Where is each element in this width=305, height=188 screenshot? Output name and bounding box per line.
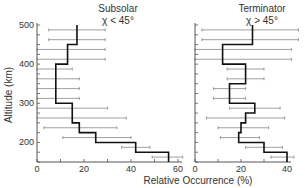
subsolar-title: Subsolar	[98, 3, 138, 14]
x-tick-label: 0	[34, 164, 39, 174]
x-tick-label: 20	[236, 164, 246, 174]
x-tick-label: 40	[126, 164, 136, 174]
terminator-panel: 02040	[192, 23, 298, 174]
terminator-subtitle: χ > 45°	[246, 15, 278, 26]
y-tick-label: 500	[19, 20, 34, 30]
x-tick-label: 20	[79, 164, 89, 174]
subsolar-subtitle: χ < 45°	[102, 15, 134, 26]
y-tick-label: 400	[19, 59, 34, 69]
x-axis-label: Relative Occurrence (%)	[144, 175, 253, 186]
occurrence-step-line	[223, 25, 287, 162]
x-tick-label: 60	[173, 164, 183, 174]
y-tick-label: 300	[19, 98, 34, 108]
terminator-title: Terminator	[238, 3, 286, 14]
y-axis-label: Altitude (km)	[3, 67, 14, 123]
occurrence-step-line	[56, 25, 169, 162]
x-tick-label: 0	[192, 164, 197, 174]
y-tick-label: 200	[19, 137, 34, 147]
x-tick-label: 40	[282, 164, 292, 174]
subsolar-panel: 2003004005000204060	[19, 20, 183, 174]
altitude-occurrence-chart: 2003004005000204060 02040 Altitude (km) …	[0, 0, 305, 188]
